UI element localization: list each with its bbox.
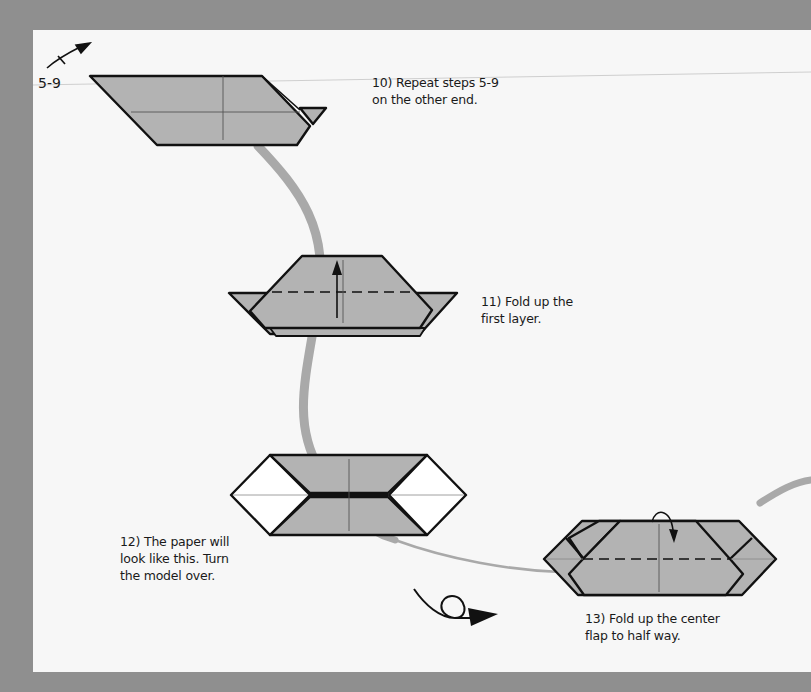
- step-12-caption: 12) The paper will look like this. Turn …: [120, 533, 229, 584]
- caption-line: 11) Fold up the: [481, 293, 573, 310]
- step-13-model: [544, 521, 776, 595]
- step-12-model: [231, 455, 466, 535]
- reference-steps-label: 5-9: [38, 75, 61, 91]
- caption-line: the model over.: [120, 567, 229, 584]
- caption-line: on the other end.: [372, 91, 499, 108]
- fold-repeat-arrow-icon: [47, 43, 90, 68]
- caption-line: 13) Fold up the center: [585, 610, 720, 627]
- step-11-caption: 11) Fold up the first layer.: [481, 293, 573, 327]
- step-10-model: [90, 76, 326, 145]
- caption-line: 12) The paper will: [120, 533, 229, 550]
- step-10-caption: 10) Repeat steps 5-9 on the other end.: [372, 74, 499, 108]
- step-13-caption: 13) Fold up the center flap to half way.: [585, 610, 720, 644]
- caption-line: first layer.: [481, 310, 573, 327]
- turn-over-arrow-icon: [414, 589, 498, 626]
- caption-line: flap to half way.: [585, 627, 720, 644]
- step-11-model: [229, 256, 457, 336]
- caption-line: 10) Repeat steps 5-9: [372, 74, 499, 91]
- caption-line: look like this. Turn: [120, 550, 229, 567]
